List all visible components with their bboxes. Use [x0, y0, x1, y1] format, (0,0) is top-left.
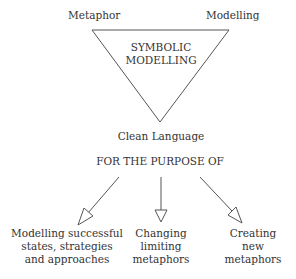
arrow-right: [200, 177, 242, 223]
outcome-line: metaphors: [222, 253, 284, 266]
label-purpose: FOR THE PURPOSE OF: [90, 155, 230, 168]
label-metaphor: Metaphor: [68, 9, 120, 22]
symbolic-modelling-diagram: Metaphor Modelling SYMBOLIC MODELLING Cl…: [0, 0, 296, 279]
triangle-center-line1: SYMBOLIC: [130, 41, 192, 54]
outcome-line: Modelling successful: [8, 227, 126, 240]
arrow-middle: [155, 177, 167, 222]
outcome-line: states, strategies: [8, 240, 126, 253]
outcome-creating-new: Creating new metaphors: [222, 227, 284, 266]
triangle-center-line2: MODELLING: [125, 54, 197, 67]
outcome-line: and approaches: [8, 253, 126, 266]
outcome-line: Changing: [132, 227, 190, 240]
label-modelling: Modelling: [206, 9, 260, 22]
outcome-line: Creating: [222, 227, 284, 240]
outcome-modelling-successful: Modelling successful states, strategies …: [8, 227, 126, 266]
label-clean-language: Clean Language: [110, 130, 212, 143]
outcome-changing-limiting: Changing limiting metaphors: [132, 227, 190, 266]
outcome-line: limiting: [132, 240, 190, 253]
arrow-left: [78, 177, 119, 225]
outcome-line: new: [222, 240, 284, 253]
outcome-line: metaphors: [132, 253, 190, 266]
